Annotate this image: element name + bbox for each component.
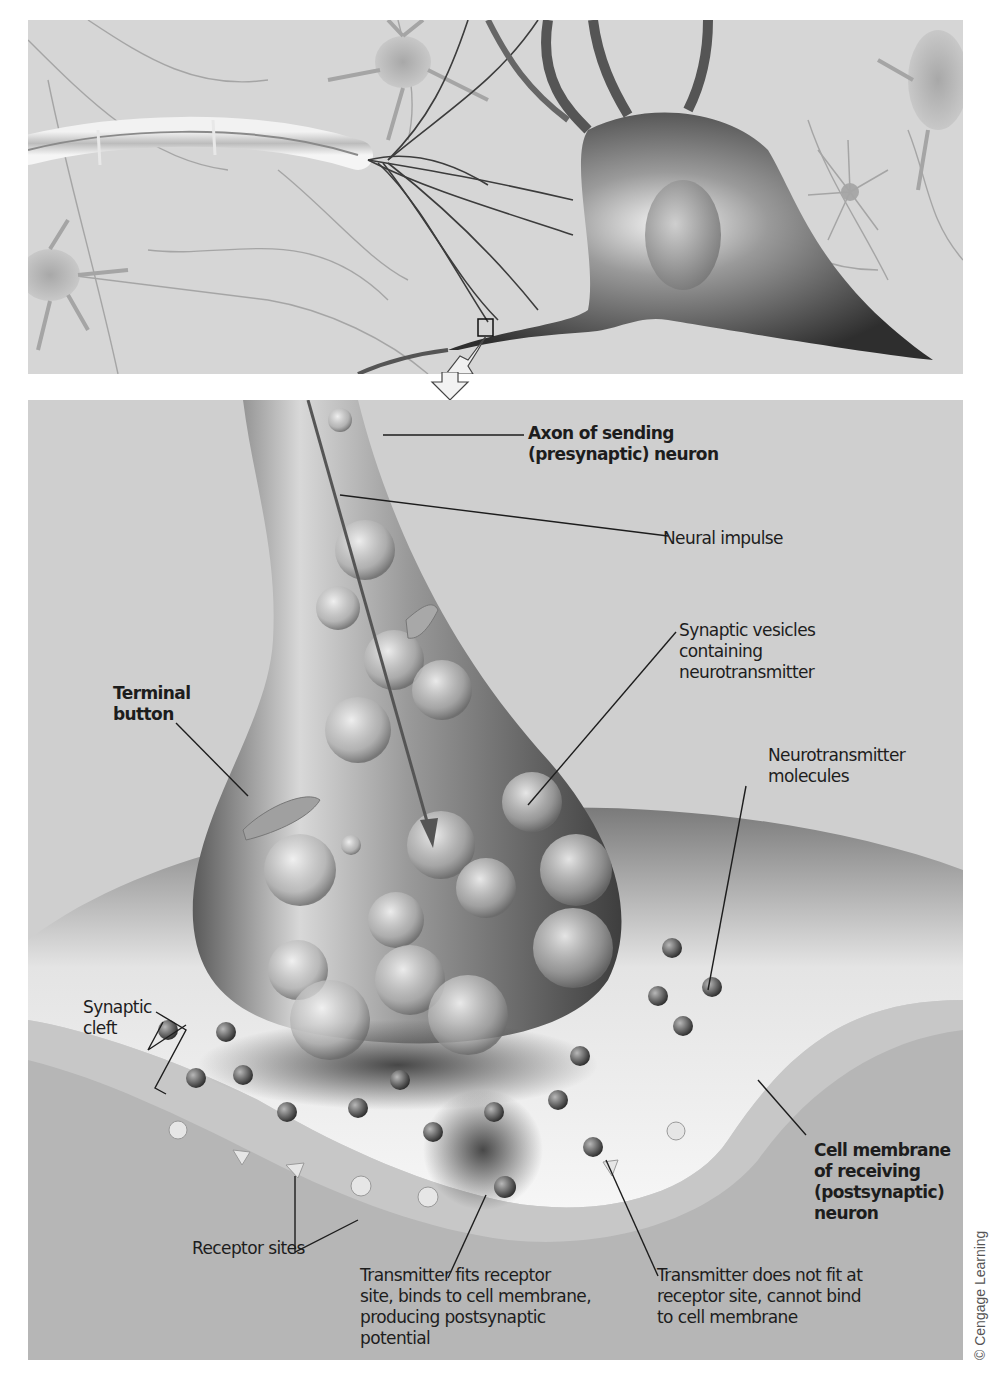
neuron-network-illustration	[28, 20, 963, 374]
label-transmitter-not-fit: Transmitter does not fit at receptor sit…	[657, 1265, 862, 1328]
neuron-network-overview	[28, 20, 963, 374]
label-neural-impulse: Neural impulse	[663, 528, 783, 549]
label-synaptic-cleft: Synaptic cleft	[83, 997, 152, 1039]
zoom-arrow-icon	[430, 372, 470, 402]
label-transmitter-fits: Transmitter fits receptor site, binds to…	[360, 1265, 591, 1349]
label-cell-membrane: Cell membrane of receiving (postsynaptic…	[814, 1140, 950, 1224]
label-terminal-button: Terminal button	[113, 683, 190, 725]
copyright-credit: © Cengage Learning	[972, 1231, 988, 1360]
label-axon: Axon of sending (presynaptic) neuron	[528, 423, 718, 465]
label-receptor-sites: Receptor sites	[192, 1238, 305, 1259]
label-neurotransmitter-molecules: Neurotransmitter molecules	[768, 745, 905, 787]
label-synaptic-vesicles: Synaptic vesicles containing neurotransm…	[679, 620, 815, 683]
